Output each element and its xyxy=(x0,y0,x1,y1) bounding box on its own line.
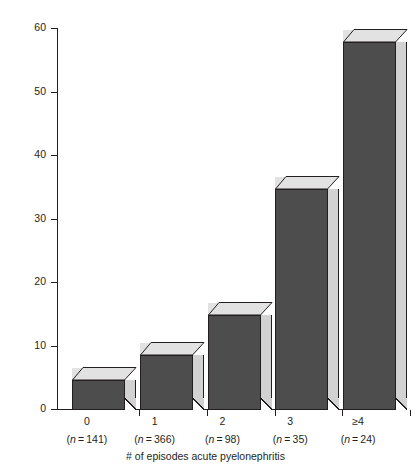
bar-side-face xyxy=(328,189,339,410)
bar-front-face xyxy=(275,189,328,410)
y-axis-tick: 40 xyxy=(51,155,58,156)
x-axis-title: # of episodes acute pyelonephritis xyxy=(0,450,411,462)
category-sample-size: (n = 35) xyxy=(256,432,324,446)
bar-top-face xyxy=(343,30,396,42)
bar xyxy=(208,315,261,410)
bar-side-face xyxy=(193,355,204,410)
y-axis-tick-label: 60 xyxy=(34,21,46,34)
bar-top-face xyxy=(208,303,261,315)
x-axis-category-label: ≥4(n = 24) xyxy=(324,414,392,446)
bar xyxy=(140,355,193,410)
chart-figure: % with renal scaring 0102030405060 # of … xyxy=(0,0,411,474)
bar-front-face xyxy=(140,355,193,410)
y-axis-tick: 20 xyxy=(51,282,58,283)
bar-top-face xyxy=(275,177,328,189)
y-axis-tick: 0 xyxy=(51,409,58,410)
bar-front-face xyxy=(72,380,125,410)
plot-area: 0102030405060 xyxy=(57,29,396,410)
bar-top-face xyxy=(72,368,125,380)
y-axis-tick-label: 10 xyxy=(34,339,46,352)
x-axis-category-label: 1(n = 366) xyxy=(121,414,189,446)
bar-side-face xyxy=(396,42,407,410)
category-sample-size: (n = 141) xyxy=(53,432,121,446)
y-axis-tick-label: 30 xyxy=(34,212,46,225)
y-axis-line xyxy=(57,29,58,410)
category-name: 0 xyxy=(53,414,121,428)
y-axis-tick: 30 xyxy=(51,219,58,220)
y-axis-tick-label: 20 xyxy=(34,275,46,288)
bar-front-face xyxy=(343,42,396,410)
bar xyxy=(72,380,125,410)
category-name: ≥4 xyxy=(324,414,392,428)
y-axis-tick-label: 50 xyxy=(34,85,46,98)
x-axis-category-label: 0(n = 141) xyxy=(53,414,121,446)
bar xyxy=(275,189,328,410)
bar-top-face xyxy=(140,343,193,355)
y-axis-tick: 10 xyxy=(51,346,58,347)
bar-side-face xyxy=(125,380,136,410)
y-axis-tick: 50 xyxy=(51,92,58,93)
bar-side-face xyxy=(261,315,272,410)
bar xyxy=(343,42,396,410)
x-axis-category-label: 2(n = 98) xyxy=(189,414,257,446)
x-axis-category-label: 3(n = 35) xyxy=(256,414,324,446)
category-name: 2 xyxy=(189,414,257,428)
y-axis-tick-label: 0 xyxy=(40,402,46,415)
category-sample-size: (n = 24) xyxy=(324,432,392,446)
y-axis-tick: 60 xyxy=(51,28,58,29)
category-sample-size: (n = 366) xyxy=(121,432,189,446)
category-sample-size: (n = 98) xyxy=(189,432,257,446)
category-name: 1 xyxy=(121,414,189,428)
y-axis-tick-label: 40 xyxy=(34,148,46,161)
bar-front-face xyxy=(208,315,261,410)
category-name: 3 xyxy=(256,414,324,428)
